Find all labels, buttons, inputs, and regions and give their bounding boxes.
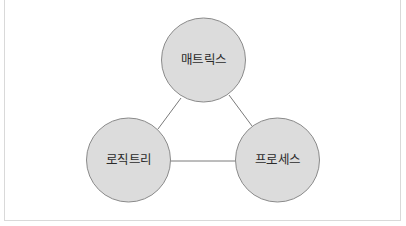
- node-matrix-label: 매트릭스: [162, 50, 246, 70]
- edge-matrix-process: [229, 95, 252, 126]
- node-process-label: 프로세스: [236, 150, 320, 170]
- node-logic-tree-label: 로직트리: [87, 150, 171, 170]
- edge-matrix-logic-tree: [158, 98, 181, 129]
- diagram-canvas: [0, 0, 406, 226]
